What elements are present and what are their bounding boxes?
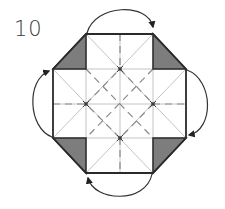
arrow-icon-right xyxy=(187,70,208,135)
arrow-icon-top xyxy=(87,10,153,33)
arrow-icon-left xyxy=(33,71,52,137)
arrow-icon-bottom xyxy=(88,174,152,196)
origami-diagram xyxy=(0,0,225,209)
